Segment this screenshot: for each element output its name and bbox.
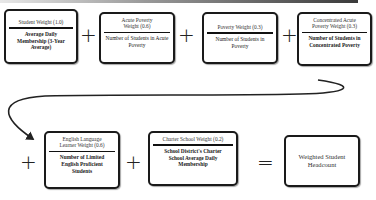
acute-poverty-weight-label: Acute Poverty Weight (0.6) (112, 14, 162, 31)
student-weight-description: Average Daily Membership (3-Year Average… (11, 31, 71, 51)
concentrated-acute-poverty-weight-label: Concentrated Acute Poverty Weight (0.3) (304, 14, 366, 31)
weighted-student-headcount-box: Weighted Student Headcount (284, 135, 360, 187)
divider (153, 144, 232, 146)
charter-school-box: Charter School Weight (0.2) School Distr… (148, 131, 238, 186)
acute-poverty-box: Acute Poverty Weight (0.6) Number of Stu… (99, 12, 175, 64)
plus-operator: + (178, 25, 195, 45)
poverty-weight-label: Poverty Weight (0.3) (204, 14, 276, 31)
divider (302, 32, 367, 34)
result-label: Weighted Student Headcount (292, 153, 352, 169)
poverty-box: Poverty Weight (0.3) Number of Students … (202, 12, 278, 64)
divider (9, 27, 73, 29)
plus-operator: + (20, 152, 37, 172)
acute-poverty-description: Number of Students in Acute Poverty (103, 35, 171, 48)
equals-operator: = (257, 152, 274, 172)
divider (104, 32, 170, 34)
poverty-description: Number of Students in Poverty (209, 36, 271, 49)
plus-operator: + (125, 152, 142, 172)
charter-school-description: School District's Charter School Average… (155, 148, 231, 168)
divider (49, 151, 115, 153)
plus-operator: + (80, 25, 97, 45)
student-weight-label: Student Weight (1.0) (6, 11, 76, 26)
english-learner-description: Number of Limited English Proficient Stu… (52, 154, 112, 174)
student-weight-box: Student Weight (1.0) Average Daily Membe… (4, 9, 78, 64)
concentrated-acute-poverty-box: Concentrated Acute Poverty Weight (0.3) … (297, 12, 372, 66)
english-learner-weight-label: English Language Learner Weight (0.6) (54, 133, 110, 150)
concentrated-acute-poverty-description: Number of Students in Concentrated Pover… (300, 35, 370, 48)
plus-operator: + (281, 25, 298, 45)
charter-school-weight-label: Charter School Weight (0.2) (150, 133, 236, 143)
divider (207, 32, 273, 34)
english-learner-box: English Language Learner Weight (0.6) Nu… (44, 131, 120, 189)
